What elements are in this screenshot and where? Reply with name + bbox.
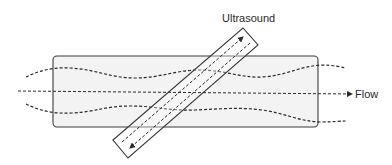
ultrasound-label: Ultrasound <box>222 12 275 24</box>
flow-label: Flow <box>355 88 378 100</box>
ultrasound-flow-diagram: Ultrasound Flow <box>0 0 392 165</box>
